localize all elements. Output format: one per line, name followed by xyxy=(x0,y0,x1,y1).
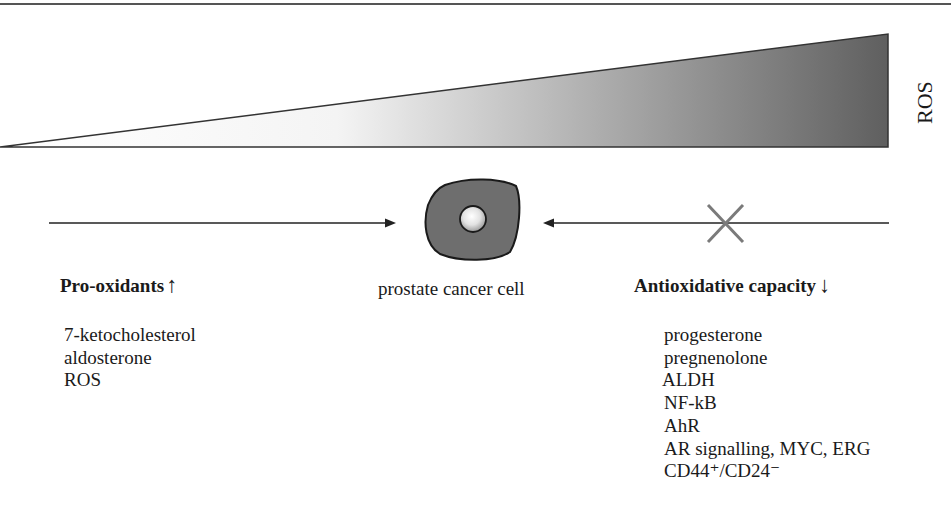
list-item: ALDH xyxy=(662,369,870,392)
ros-gradient-wedge xyxy=(0,34,888,147)
pro-oxidant-arrow xyxy=(49,219,396,228)
pro-oxidants-title: Pro-oxidants xyxy=(60,275,164,296)
antioxidative-heading: Antioxidative capacity↓ xyxy=(634,273,830,298)
antioxidative-title: Antioxidative capacity xyxy=(634,275,816,296)
list-item: ROS xyxy=(64,369,196,392)
list-item: pregnenolone xyxy=(664,347,870,370)
antioxidative-list: progesterone pregnenolone ALDH NF-kB AhR… xyxy=(664,324,870,483)
list-item: progesterone xyxy=(664,324,870,347)
list-item: AhR xyxy=(664,415,870,438)
pro-oxidants-list: 7-ketocholesterol aldosterone ROS xyxy=(64,324,196,392)
list-item: AR signalling, MYC, ERG xyxy=(664,438,870,461)
pro-oxidants-heading: Pro-oxidants↑ xyxy=(60,273,177,298)
list-item: NF-kB xyxy=(664,392,870,415)
list-item: aldosterone xyxy=(64,347,196,370)
list-item: 7-ketocholesterol xyxy=(64,324,196,347)
list-item: CD44⁺/CD24⁻ xyxy=(664,460,870,483)
prostate-cancer-cell-icon xyxy=(426,179,520,259)
antioxidant-arrow xyxy=(543,219,889,228)
down-arrow-icon: ↓ xyxy=(819,272,830,297)
cell-label: prostate cancer cell xyxy=(378,277,525,301)
up-arrow-icon: ↑ xyxy=(166,272,177,297)
ros-axis-label: ROS xyxy=(912,81,938,124)
